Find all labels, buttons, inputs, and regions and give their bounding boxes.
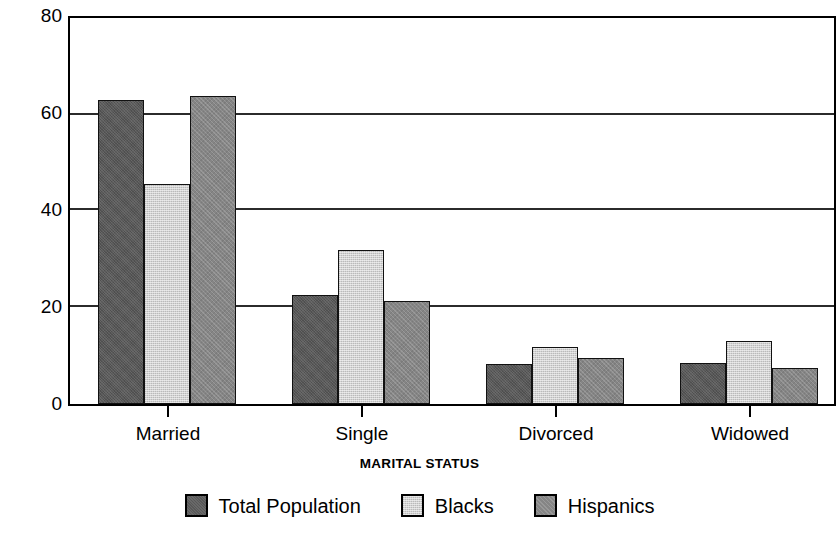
bar-divorced-blacks: [532, 347, 578, 404]
bar-chart: PROPORTION OF THE POPULATION 80 60 40 20…: [0, 0, 839, 540]
bar-widowed-total-population: [680, 363, 726, 404]
legend-swatch-icon: [401, 494, 424, 517]
bar-widowed-hispanics: [772, 368, 818, 404]
bar-widowed-blacks: [726, 341, 772, 404]
y-tick-label-80: 80: [22, 6, 62, 25]
x-category-label-single: Single: [272, 424, 452, 445]
bar-single-total-population: [292, 295, 338, 404]
bar-single-blacks: [338, 250, 384, 404]
legend-item-total-population[interactable]: Total Population: [185, 494, 361, 517]
bar-married-total-population: [98, 100, 144, 404]
x-category-label-married: Married: [78, 424, 258, 445]
x-tick-married: [167, 406, 169, 417]
legend-label: Blacks: [435, 496, 494, 516]
plot-area: [68, 16, 836, 406]
bar-divorced-total-population: [486, 364, 532, 404]
y-tick-label-0: 0: [22, 394, 62, 413]
y-tick-label-40: 40: [22, 200, 62, 219]
legend-swatch-icon: [185, 494, 208, 517]
bar-divorced-hispanics: [578, 358, 624, 404]
legend-label: Total Population: [219, 496, 361, 516]
y-axis-title: PROPORTION OF THE POPULATION: [0, 0, 22, 38]
x-category-label-divorced: Divorced: [466, 424, 646, 445]
legend-item-blacks[interactable]: Blacks: [401, 494, 494, 517]
chart-legend: Total PopulationBlacksHispanics: [0, 494, 839, 517]
legend-swatch-icon: [534, 494, 557, 517]
x-tick-single: [361, 406, 363, 417]
x-axis-title: MARITAL STATUS: [0, 456, 839, 471]
bar-married-blacks: [144, 184, 190, 404]
bar-single-hispanics: [384, 301, 430, 404]
y-tick-label-20: 20: [22, 297, 62, 316]
x-tick-divorced: [555, 406, 557, 417]
x-category-label-widowed: Widowed: [660, 424, 839, 445]
legend-item-hispanics[interactable]: Hispanics: [534, 494, 655, 517]
x-tick-widowed: [749, 406, 751, 417]
y-tick-label-60: 60: [22, 103, 62, 122]
bars-layer: [70, 18, 834, 404]
bar-married-hispanics: [190, 96, 236, 404]
legend-label: Hispanics: [568, 496, 655, 516]
